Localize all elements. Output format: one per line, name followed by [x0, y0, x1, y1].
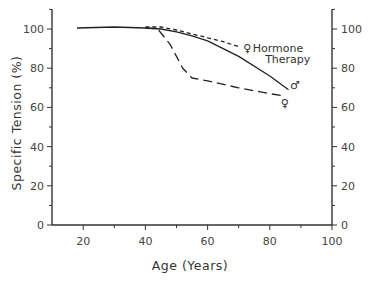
specific-tension-chart: 02040608010002040608010020406080100Age (…	[0, 0, 370, 282]
therapy-label: Therapy	[264, 53, 311, 66]
right-y-tick-label: 40	[341, 141, 355, 154]
left-y-tick-label: 60	[30, 101, 44, 114]
x-tick-label: 60	[201, 235, 215, 248]
series-female-hormone-therapy	[145, 27, 238, 47]
series-male	[77, 27, 289, 90]
x-tick-label: 20	[76, 235, 90, 248]
female-symbol-hormone: ♀	[243, 42, 251, 55]
left-y-tick-label: 100	[23, 23, 44, 36]
x-tick-label: 40	[138, 235, 152, 248]
left-y-tick-label: 40	[30, 141, 44, 154]
right-y-tick-label: 0	[341, 219, 348, 232]
left-y-tick-label: 20	[30, 180, 44, 193]
right-y-tick-label: 20	[341, 180, 355, 193]
male-symbol: ♂	[290, 79, 300, 92]
right-y-tick-label: 60	[341, 101, 355, 114]
y-axis-title: Specific Tension (%)	[9, 56, 24, 191]
right-y-tick-label: 80	[341, 62, 355, 75]
x-axis-title: Age (Years)	[152, 258, 228, 273]
left-y-tick-label: 80	[30, 62, 44, 75]
series-female	[145, 28, 282, 96]
x-tick-label: 100	[322, 235, 343, 248]
female-symbol: ♀	[281, 97, 289, 110]
right-y-tick-label: 100	[341, 23, 362, 36]
x-tick-label: 80	[263, 235, 277, 248]
left-y-tick-label: 0	[37, 219, 44, 232]
